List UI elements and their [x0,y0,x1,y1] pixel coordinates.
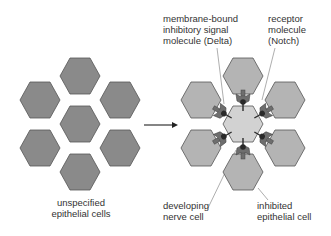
unspecified-cell [60,106,100,142]
notch-label: receptor molecule (Notch) [268,13,306,46]
inhibited-epithelial-cell [223,58,263,94]
inhibited-cell-label: inhibited epithelial cell [257,200,311,222]
unspecified-cell [60,154,100,190]
inhibited-epithelial-cell [181,82,221,118]
nerve-cell-label: developing nerve cell [163,200,209,222]
unspecified-cell [60,58,100,94]
unspecified-cell-cluster [20,58,140,190]
delta-label: membrane-bound inhibitory signal molecul… [163,13,238,46]
unspecified-cell [100,130,140,166]
developing-nerve-cell [223,106,263,142]
unspecified-cell [100,82,140,118]
transition-arrow-icon [144,122,178,128]
unspecified-cells-label: unspecified epithelial cells [40,197,122,219]
unspecified-cell [20,130,60,166]
inhibited-epithelial-cell [223,154,263,190]
inhibited-epithelial-cell [265,82,305,118]
unspecified-cell [20,82,60,118]
